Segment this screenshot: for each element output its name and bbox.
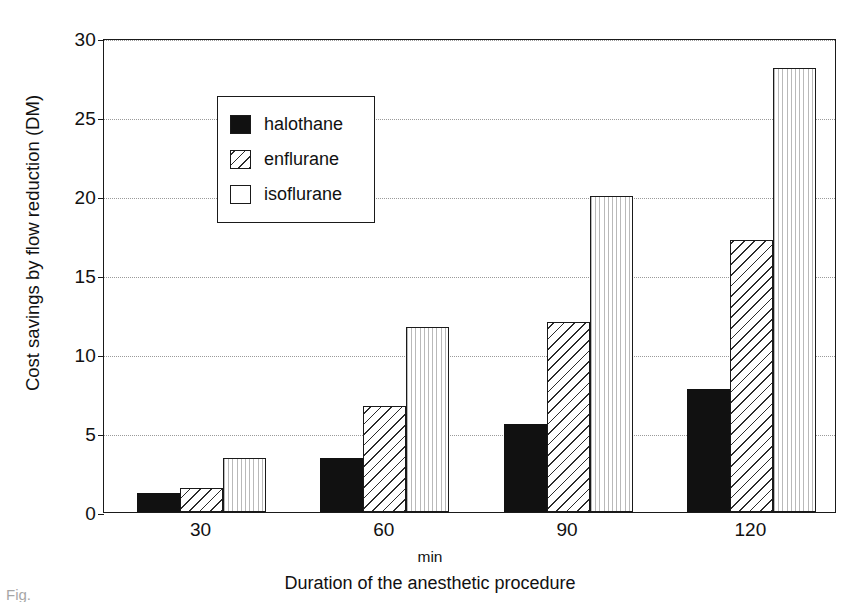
y-axis-tick-label: 5 xyxy=(52,425,96,444)
bar-isoflurane-90 xyxy=(590,196,633,512)
y-axis-tick-mark xyxy=(98,198,104,199)
solid-black-swatch-icon xyxy=(230,115,251,134)
y-axis-title: Cost savings by flow reduction (DM) xyxy=(22,3,44,483)
bar-enflurane-120 xyxy=(730,240,773,512)
y-axis-tick-label: 30 xyxy=(52,30,96,49)
bar-isoflurane-60 xyxy=(406,327,449,512)
y-axis-tick-label: 15 xyxy=(52,267,96,286)
y-axis-tick-mark xyxy=(98,119,104,120)
vertical-hatch-swatch-icon xyxy=(230,185,251,204)
y-axis-tick-label: 0 xyxy=(52,504,96,523)
figure-bar-chart: 051015202530 Cost savings by flow reduct… xyxy=(0,0,860,605)
plot-area: halothane enflurane isoflurane xyxy=(103,39,836,513)
y-axis-tick-mark xyxy=(98,514,104,515)
legend: halothane enflurane isoflurane xyxy=(217,96,375,223)
bar-isoflurane-120 xyxy=(773,68,816,512)
legend-item-label: halothane xyxy=(264,114,343,135)
legend-item-label: enflurane xyxy=(264,149,339,170)
bar-group xyxy=(504,40,633,512)
x-axis-tick-label: 30 xyxy=(190,519,211,541)
bar-halothane-30 xyxy=(137,493,180,512)
y-axis-tick-labels: 051015202530 xyxy=(52,39,96,513)
x-axis-tick-label: 120 xyxy=(735,519,767,541)
x-axis-tick-label: 90 xyxy=(557,519,578,541)
bar-isoflurane-30 xyxy=(223,458,266,512)
y-axis-tick-label: 20 xyxy=(52,188,96,207)
legend-item: isoflurane xyxy=(230,177,374,212)
y-axis-tick-mark xyxy=(98,435,104,436)
bar-enflurane-60 xyxy=(363,406,406,512)
y-axis-tick-label: 10 xyxy=(52,346,96,365)
y-axis-tick-label: 25 xyxy=(52,109,96,128)
x-axis-tick-label: 60 xyxy=(373,519,394,541)
bar-halothane-60 xyxy=(320,458,363,512)
bar-halothane-120 xyxy=(687,389,730,512)
caption-fragment: Fig. xyxy=(6,586,306,602)
x-axis-unit-label: min xyxy=(0,548,860,566)
x-axis-tick-labels: 306090120 xyxy=(103,519,836,545)
y-axis-tick-mark xyxy=(98,356,104,357)
bar-group xyxy=(687,40,816,512)
diagonal-hatch-swatch-icon xyxy=(230,150,251,169)
y-axis-tick-mark xyxy=(98,277,104,278)
bar-enflurane-90 xyxy=(547,322,590,512)
legend-item: halothane xyxy=(230,107,374,142)
bar-enflurane-30 xyxy=(180,488,223,512)
y-axis-tick-mark xyxy=(98,40,104,41)
bar-halothane-90 xyxy=(504,424,547,512)
legend-item: enflurane xyxy=(230,142,374,177)
legend-item-label: isoflurane xyxy=(264,184,342,205)
